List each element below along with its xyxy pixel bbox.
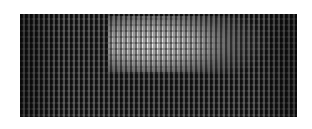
image-canvas xyxy=(0,0,312,129)
edge-shading xyxy=(20,14,297,117)
mesh-grid-panel xyxy=(20,14,297,117)
